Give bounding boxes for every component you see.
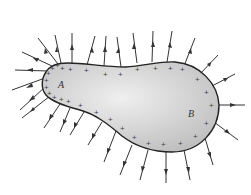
svg-text:+: + (193, 132, 198, 141)
svg-text:+: + (146, 139, 151, 148)
label-point-b: B (188, 108, 194, 119)
svg-text:+: + (103, 70, 108, 79)
svg-text:+: + (118, 70, 123, 79)
svg-text:+: + (78, 101, 83, 110)
svg-text:+: + (178, 139, 183, 148)
svg-text:+: + (209, 101, 214, 110)
svg-text:+: + (180, 65, 185, 74)
svg-text:+: + (161, 140, 166, 149)
svg-text:+: + (59, 95, 64, 104)
svg-text:+: + (68, 65, 73, 74)
svg-text:+: + (94, 108, 99, 117)
charged-conductor-diagram: + + + + + + + + + + + + + + + + + + + + … (0, 0, 251, 195)
svg-text:+: + (60, 64, 65, 73)
svg-text:+: + (132, 133, 137, 142)
svg-text:+: + (153, 64, 158, 73)
svg-text:+: + (195, 75, 200, 84)
svg-text:+: + (168, 64, 173, 73)
svg-text:+: + (135, 65, 140, 74)
svg-text:+: + (52, 93, 57, 102)
svg-text:+: + (120, 124, 125, 133)
svg-text:+: + (84, 66, 89, 75)
label-point-a: A (57, 79, 65, 90)
svg-text:+: + (66, 97, 71, 106)
svg-text:+: + (204, 88, 209, 97)
svg-text:+: + (204, 119, 209, 128)
svg-text:+: + (108, 115, 113, 124)
